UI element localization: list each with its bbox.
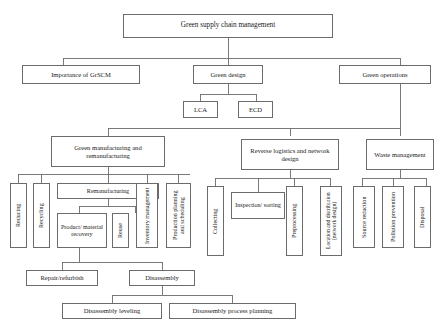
node-disassembly-process-planning[interactable]: Disassembly process planning	[169, 303, 296, 319]
node-recycling[interactable]: Recycling	[33, 183, 50, 248]
node-ecd-label: ECD	[247, 106, 264, 113]
node-reverse-logistics-and-network-design[interactable]: Reverse logistics and network design	[241, 139, 339, 170]
node-lca[interactable]: LCA	[183, 101, 218, 118]
node-source-reduction[interactable]: Source reduction	[353, 186, 375, 248]
node-reducing[interactable]: Reducing	[10, 183, 27, 248]
node-location-and-distribution-label: Location and distribution (network desig…	[325, 187, 337, 255]
node-green-operations[interactable]: Green operations	[339, 65, 431, 84]
node-importance-label: Importance of GrSCM	[49, 71, 113, 78]
node-collecting-label: Collecting	[212, 206, 219, 235]
node-green-design[interactable]: Green design	[193, 65, 263, 84]
node-repair-refurbish-label: Repair/refurbish	[38, 274, 85, 281]
node-green-manufacturing-label: Green manufacturing and remanufacturing	[52, 144, 164, 158]
node-preprocessing[interactable]: Preprocessing	[286, 186, 303, 256]
node-product-material-recovery[interactable]: Product/ material recovery	[57, 213, 107, 248]
node-location-and-distribution[interactable]: Location and distribution (network desig…	[320, 186, 342, 256]
node-pollution-prevention-label: Pollution prevention	[390, 190, 397, 244]
node-disassembly[interactable]: Disassembly	[129, 270, 195, 286]
node-root[interactable]: Green supply chain management	[123, 14, 333, 38]
node-recycling-label: Recycling	[38, 201, 45, 230]
node-product-material-recovery-label: Product/ material recovery	[58, 224, 106, 237]
node-disassembly-leveling-label: Disassembly leveling	[82, 307, 143, 314]
node-green-manufacturing-and-remanufacturing[interactable]: Green manufacturing and remanufacturing	[51, 136, 165, 167]
node-collecting[interactable]: Collecting	[207, 186, 224, 256]
node-ecd[interactable]: ECD	[238, 101, 273, 118]
node-green-operations-label: Green operations	[360, 71, 409, 78]
node-production-planning-and-scheduling[interactable]: Production planning and scheduling	[166, 183, 191, 248]
node-disassembly-process-planning-label: Disassembly process planning	[191, 307, 275, 314]
node-disassembly-leveling[interactable]: Disassembly leveling	[62, 303, 162, 319]
node-inspection-sorting[interactable]: Inspection/ sorting	[231, 192, 285, 219]
node-root-label: Green supply chain management	[179, 22, 277, 30]
node-reducing-label: Reducing	[15, 202, 22, 229]
green-supply-chain-management-diagram: Green supply chain management Importance…	[0, 0, 442, 329]
node-inspection-sorting-label: Inspection/ sorting	[233, 202, 283, 209]
node-importance-of-grscm[interactable]: Importance of GrSCM	[22, 65, 140, 84]
node-reuse-label: Reuse	[117, 221, 124, 240]
node-inventory-management-label: Inventory management	[144, 185, 151, 245]
node-waste-management[interactable]: Waste management	[366, 139, 434, 170]
node-disposal-label: Disposal	[419, 204, 426, 229]
node-disassembly-label: Disassembly	[143, 274, 181, 281]
node-source-reduction-label: Source reduction	[361, 194, 368, 239]
node-remanufacturing-label: Remanufacturing	[85, 188, 131, 195]
node-reverse-logistics-label: Reverse logistics and network design	[242, 147, 338, 161]
node-lca-label: LCA	[192, 106, 209, 113]
node-reuse[interactable]: Reuse	[112, 213, 129, 248]
node-disposal[interactable]: Disposal	[414, 186, 431, 248]
node-waste-management-label: Waste management	[372, 151, 427, 158]
node-pollution-prevention[interactable]: Pollution prevention	[382, 186, 404, 248]
node-inventory-management[interactable]: Inventory management	[136, 183, 158, 248]
node-green-design-label: Green design	[209, 71, 248, 78]
node-repair-refurbish[interactable]: Repair/refurbish	[26, 270, 98, 286]
node-preprocessing-label: Preprocessing	[291, 202, 298, 240]
node-production-planning-label: Production planning and scheduling	[172, 184, 185, 247]
